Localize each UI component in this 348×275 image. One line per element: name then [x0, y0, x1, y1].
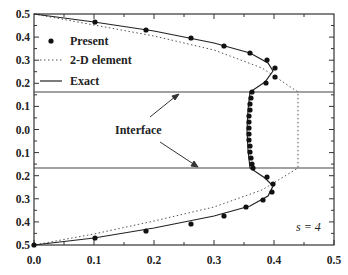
legend-marker-present: [48, 38, 53, 43]
legend-label-present: Present: [70, 34, 108, 48]
y-tick: 0.3: [16, 54, 31, 66]
legend-label-2d: 2-D element: [70, 53, 132, 67]
legend-label-exact: Exact: [70, 74, 99, 88]
x-axis-ticks: [34, 14, 334, 245]
interface-label: Interface: [115, 123, 162, 137]
y-tick: 0.2: [16, 170, 31, 182]
x-tick: 0.1: [87, 254, 102, 266]
chart: 0.5 0.4 0.3 0.2 0.1 0.0 0.1 0.2 0.3 0.4 …: [0, 0, 348, 275]
y-tick: 0.5: [16, 8, 31, 20]
y-tick: 0.1: [16, 147, 31, 159]
y-tick: 0.2: [16, 77, 31, 89]
y-tick: 0.5: [16, 239, 31, 251]
y-tick-labels: 0.5 0.4 0.3 0.2 0.1 0.0 0.1 0.2 0.3 0.4 …: [16, 8, 31, 251]
x-tick: 0.0: [27, 254, 42, 266]
y-tick: 0.0: [16, 124, 31, 136]
legend: Present 2-D element Exact: [40, 34, 132, 88]
x-tick-labels: 0.0 0.1 0.2 0.3 0.4 0.5: [27, 254, 342, 266]
plot-frame: [34, 14, 334, 245]
x-tick: 0.2: [147, 254, 162, 266]
y-tick: 0.3: [16, 193, 31, 205]
y-tick: 0.4: [16, 31, 31, 43]
y-tick: 0.1: [16, 100, 31, 112]
parameter-label: s = 4: [296, 220, 321, 234]
x-tick: 0.5: [327, 254, 342, 266]
x-tick: 0.3: [207, 254, 222, 266]
y-tick: 0.4: [16, 216, 31, 228]
x-tick: 0.4: [267, 254, 282, 266]
series-2d-element: [34, 14, 298, 245]
